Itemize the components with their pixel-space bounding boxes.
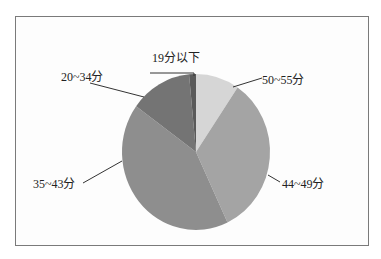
label-44-49: 44~49分 xyxy=(282,177,325,191)
label-50-55: 50~55分 xyxy=(262,73,305,87)
leader-line xyxy=(83,161,122,183)
leader-line xyxy=(268,175,280,182)
label-35-43: 35~43分 xyxy=(33,177,76,191)
label-19-and-below: 19分以下 xyxy=(152,51,200,65)
leader-line xyxy=(233,78,262,87)
pie-chart xyxy=(0,0,381,259)
label-20-34: 20~34分 xyxy=(61,70,104,84)
leader-line xyxy=(90,83,144,97)
